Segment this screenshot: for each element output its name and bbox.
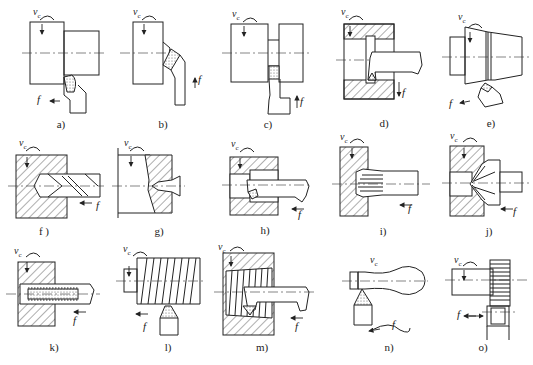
feed-label-i: f xyxy=(408,202,411,214)
panel-label-j: j) xyxy=(486,225,493,237)
vc-label-f: vc xyxy=(19,137,27,151)
feed-label-c: f xyxy=(300,95,303,107)
feed-label-o: f xyxy=(457,308,460,320)
panel-label-g: g) xyxy=(154,225,163,237)
vc-label-b: vc xyxy=(133,6,141,20)
panel-m-internal-thread xyxy=(214,247,315,335)
feed-label-d: f xyxy=(402,86,405,98)
feed-label-k: f xyxy=(73,314,76,326)
vc-label-a: vc xyxy=(33,6,41,20)
panel-label-n: n) xyxy=(384,341,393,353)
panel-label-b: b) xyxy=(158,118,167,130)
vc-label-h: vc xyxy=(231,138,239,152)
feed-label-l: f xyxy=(143,320,146,332)
panel-i-reaming xyxy=(332,139,430,216)
panel-b-facing xyxy=(120,16,195,105)
panel-k-tapping xyxy=(6,253,100,326)
vc-label-k: vc xyxy=(14,245,22,259)
vc-label-c: vc xyxy=(232,8,240,22)
panel-e-taper-turning xyxy=(442,24,530,107)
panel-label-e: e) xyxy=(487,117,496,129)
panel-j-countersinking xyxy=(442,138,530,216)
panel-label-i: i) xyxy=(380,225,387,237)
panel-label-a: a) xyxy=(57,118,66,130)
panel-d-internal-grooving xyxy=(336,16,422,99)
vc-label-j: vc xyxy=(450,130,458,144)
vc-label-n: vc xyxy=(370,254,378,268)
panel-label-h: h) xyxy=(260,224,269,236)
vc-label-l: vc xyxy=(123,243,131,257)
vc-label-m: vc xyxy=(218,241,226,255)
vc-label-d: vc xyxy=(341,6,349,20)
panel-label-l: l) xyxy=(165,341,172,353)
machining-operations-diagram xyxy=(0,0,533,365)
feed-label-b: f xyxy=(198,73,201,85)
feed-label-m: f xyxy=(295,320,298,332)
panel-l-thread-turning xyxy=(116,252,206,335)
feed-label-h: f xyxy=(298,208,301,220)
panel-c-grooving xyxy=(222,18,312,114)
panel-label-c: c) xyxy=(264,118,273,130)
vc-label-i: vc xyxy=(340,131,348,145)
feed-label-a: f xyxy=(37,93,40,105)
feed-label-n: f xyxy=(392,318,395,330)
panel-label-m: m) xyxy=(256,341,268,353)
panel-h-boring xyxy=(222,148,312,215)
vc-label-e: vc xyxy=(458,11,466,25)
panel-label-k: k) xyxy=(49,341,58,353)
panel-o-knurling xyxy=(445,260,530,340)
panel-label-d: d) xyxy=(379,117,388,129)
feed-label-j: f xyxy=(513,205,516,217)
vc-label-g: vc xyxy=(124,137,132,151)
panel-n-form-turning xyxy=(342,266,428,332)
panel-f-drilling xyxy=(8,147,104,218)
panel-a-external-turning xyxy=(22,16,105,113)
feed-label-f: f xyxy=(96,199,99,211)
panel-label-o: o) xyxy=(478,341,487,353)
feed-label-e: f xyxy=(449,97,452,109)
panel-g-center-drilling xyxy=(112,147,185,218)
panel-label-f: f ) xyxy=(39,225,49,237)
vc-label-o: vc xyxy=(454,254,462,268)
